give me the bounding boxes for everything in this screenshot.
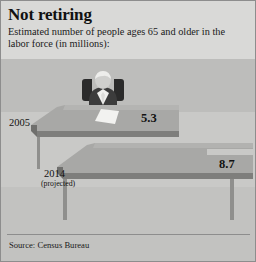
source-attribution: Source: Census Bureau xyxy=(9,240,89,250)
scene-background-upper xyxy=(1,58,256,112)
category-label-2014: 2014 xyxy=(44,168,65,179)
page-title: Not retiring xyxy=(8,5,250,24)
paper-sheet-icon xyxy=(95,109,121,125)
value-label-2005: 5.3 xyxy=(141,111,157,126)
projected-note: (projected) xyxy=(41,179,75,188)
value-label-2014: 8.7 xyxy=(219,157,235,172)
page-subtitle: Estimated number of people ages 65 and o… xyxy=(8,26,240,49)
footer-divider xyxy=(7,234,250,235)
infographic-panel: Not retiring Estimated number of people … xyxy=(0,0,256,262)
header: Not retiring Estimated number of people … xyxy=(1,1,256,59)
category-label-2005: 2005 xyxy=(9,117,30,128)
scene-background-floor xyxy=(1,187,256,262)
